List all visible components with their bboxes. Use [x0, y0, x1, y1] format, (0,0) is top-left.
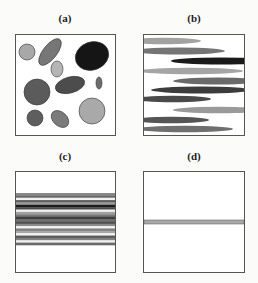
lamella-stripe: [16, 233, 115, 236]
lamella-stripe: [16, 243, 115, 246]
lamella-stripe: [16, 231, 115, 234]
panel-label-d: (d): [174, 150, 214, 162]
lamella-stripe: [16, 210, 115, 213]
panel-label-a: (a): [45, 12, 85, 24]
lamella-stripe: [16, 214, 115, 217]
lamella-stripe: [16, 207, 115, 210]
lamella-stripe: [16, 226, 115, 229]
lamella-stripe: [16, 217, 115, 220]
panel-label-c: (c): [45, 150, 85, 162]
particle-ellipse: [96, 77, 102, 89]
particle-ellipse: [19, 44, 35, 60]
lamella-stripe: [16, 228, 115, 231]
panel-a-random-ellipses: [15, 34, 116, 136]
lamella-stripe: [16, 202, 115, 205]
lamella-stripe: [16, 240, 115, 243]
lamella-stripe: [16, 200, 115, 203]
panel-d-single-layer: [143, 171, 245, 273]
panel-c-stacked-lamellae: [15, 171, 116, 273]
lamella-stripe: [16, 224, 115, 227]
lamella-stripe: [16, 195, 115, 198]
particle-ellipse: [51, 61, 63, 77]
particle-ellipse: [27, 110, 43, 126]
single-layer-band: [144, 220, 244, 224]
panel-b-elongated-ellipses: [143, 34, 245, 136]
particle-ellipse: [24, 79, 50, 105]
lamella-stripe: [16, 198, 115, 201]
lamella-stripe: [16, 212, 115, 215]
lamella-stripe: [16, 236, 115, 239]
lamella-stripe: [16, 193, 115, 196]
lamella-stripe: [16, 205, 115, 208]
lamella-stripe: [16, 238, 115, 241]
particle-ellipse: [79, 98, 105, 124]
panel-label-b: (b): [174, 12, 214, 24]
lamella-stripe: [16, 219, 115, 222]
lamella-stripe: [16, 221, 115, 224]
elongated-ellipse: [143, 68, 243, 75]
